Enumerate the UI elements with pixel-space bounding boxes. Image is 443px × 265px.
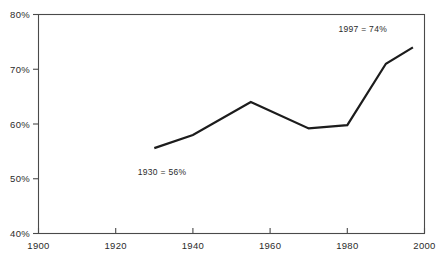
x-tick-label-1960: 1960 (259, 240, 281, 251)
start-annotation: 1930 = 56% (138, 167, 187, 177)
y-tick-label-70: 70% (10, 64, 30, 75)
x-axis-tick-labels: 1900 1920 1940 1960 1980 2000 (27, 240, 435, 251)
end-annotation: 1997 = 74% (338, 24, 387, 34)
chart-canvas: 80% 70% 60% 50% 40% 1900 1920 1940 1960 … (0, 0, 443, 265)
y-tick-label-40: 40% (10, 228, 30, 239)
y-tick-label-80: 80% (10, 9, 30, 20)
data-series-line (154, 47, 413, 148)
y-axis-tick-labels: 80% 70% 60% 50% 40% (10, 9, 30, 239)
x-axis-ticks (39, 228, 425, 234)
x-tick-label-1980: 1980 (336, 240, 358, 251)
plot-frame (39, 15, 425, 234)
y-tick-label-50: 50% (10, 173, 30, 184)
x-tick-label-2000: 2000 (413, 240, 435, 251)
line-chart: 80% 70% 60% 50% 40% 1900 1920 1940 1960 … (0, 0, 443, 265)
y-tick-label-60: 60% (10, 119, 30, 130)
x-tick-label-1900: 1900 (27, 240, 49, 251)
y-axis-ticks (33, 15, 39, 234)
x-tick-label-1940: 1940 (182, 240, 204, 251)
x-tick-label-1920: 1920 (105, 240, 127, 251)
